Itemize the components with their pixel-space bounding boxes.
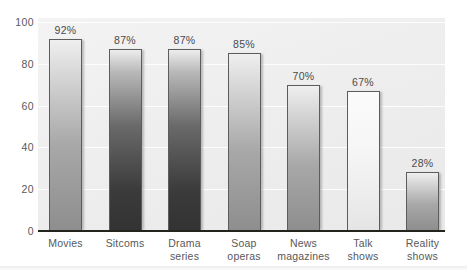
bar-group[interactable]: 87% xyxy=(109,27,142,231)
y-axis-tick-label: 0 xyxy=(0,225,34,237)
x-axis-label-line: shows xyxy=(393,250,452,263)
y-axis-tick-label: 100 xyxy=(0,16,34,28)
bar[interactable] xyxy=(347,91,380,231)
bar-value-label: 87% xyxy=(174,34,196,46)
bar[interactable] xyxy=(287,85,320,231)
y-axis-tick-label: 60 xyxy=(0,100,34,112)
x-axis-label-line: Talk xyxy=(334,237,393,250)
x-axis-category-label: Movies xyxy=(36,237,95,250)
bar[interactable] xyxy=(49,39,82,231)
x-axis-label-line: operas xyxy=(215,250,274,263)
bar-value-label: 87% xyxy=(114,34,136,46)
bar[interactable] xyxy=(168,49,201,231)
bar-group[interactable]: 92% xyxy=(49,17,82,231)
gridline xyxy=(38,22,445,23)
x-axis-category-label: Dramaseries xyxy=(155,237,214,262)
bar-group[interactable]: 70% xyxy=(287,63,320,231)
bar-group[interactable]: 87% xyxy=(168,27,201,231)
x-axis-line xyxy=(38,230,445,232)
bar-value-label: 28% xyxy=(412,157,434,169)
y-axis-tick-label: 20 xyxy=(0,183,34,195)
bar-value-label: 70% xyxy=(293,70,315,82)
x-axis-label-line: Movies xyxy=(36,237,95,250)
page-edge-artifact xyxy=(0,266,467,271)
bar-group[interactable]: 67% xyxy=(347,69,380,231)
x-axis-label-line: Drama xyxy=(155,237,214,250)
x-axis-label-line: Sitcoms xyxy=(96,237,155,250)
y-axis-tick-label: 80 xyxy=(0,58,34,70)
x-axis-category-label: Talkshows xyxy=(334,237,393,262)
bar-value-label: 92% xyxy=(55,24,77,36)
x-axis-category-label: Sitcoms xyxy=(96,237,155,250)
x-axis-label-line: shows xyxy=(334,250,393,263)
bar-group[interactable]: 85% xyxy=(228,31,261,231)
x-axis-label-line: News xyxy=(274,237,333,250)
x-axis-category-label: Realityshows xyxy=(393,237,452,262)
x-axis-category-label: Soapoperas xyxy=(215,237,274,262)
x-axis-category-label: Newsmagazines xyxy=(274,237,333,262)
x-axis-label-line: Reality xyxy=(393,237,452,250)
bar[interactable] xyxy=(406,172,439,231)
bar-value-label: 67% xyxy=(352,76,374,88)
y-axis-tick-label: 40 xyxy=(0,141,34,153)
x-axis-label-line: magazines xyxy=(274,250,333,263)
bar[interactable] xyxy=(109,49,142,231)
bar[interactable] xyxy=(228,53,261,231)
x-axis-label-line: Soap xyxy=(215,237,274,250)
bar-value-label: 85% xyxy=(233,38,255,50)
y-axis: 020406080100 xyxy=(0,0,34,271)
x-axis-label-line: series xyxy=(155,250,214,263)
bar-chart: 020406080100 92%87%87%85%70%67%28% Movie… xyxy=(0,0,467,271)
bar-group[interactable]: 28% xyxy=(406,150,439,231)
